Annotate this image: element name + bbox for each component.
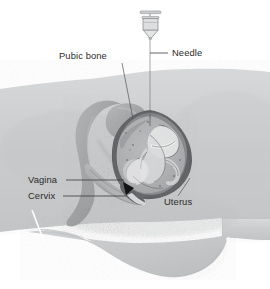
- amniocentesis-figure: Pubic bone Needle Vagina Cervix Uterus: [0, 0, 270, 289]
- label-uterus: Uterus: [164, 196, 192, 207]
- label-pubic-bone: Pubic bone: [59, 50, 107, 61]
- label-cervix: Cervix: [28, 190, 55, 201]
- syringe-barrel: [140, 11, 161, 39]
- figure-canvas: Pubic bone Needle Vagina Cervix Uterus: [0, 0, 270, 289]
- label-vagina: Vagina: [28, 174, 58, 185]
- label-needle: Needle: [172, 47, 202, 58]
